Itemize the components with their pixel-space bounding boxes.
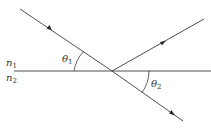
n1-label: n1 [6,57,17,70]
reflected-ray [112,19,204,71]
refracted-arrow-icon [169,110,175,116]
refraction-diagram: θ1 θ2 n1 n2 [0,0,211,128]
theta2-label: θ2 [151,78,162,91]
reflected-arrow-icon [160,41,166,46]
theta1-label: θ1 [62,53,73,66]
incident-arrow-icon [47,25,53,31]
n2-label: n2 [6,72,17,85]
theta2-arc [142,71,149,93]
theta1-arc [74,52,84,72]
